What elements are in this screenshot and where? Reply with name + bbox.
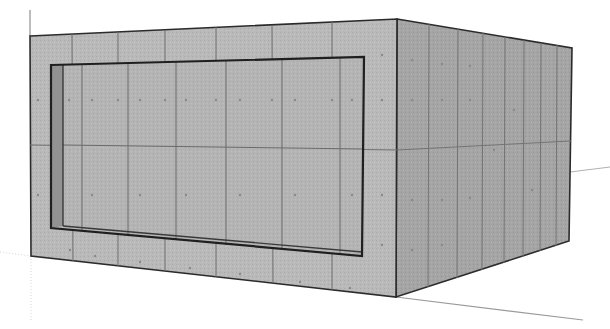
box-model-drawing	[0, 0, 610, 329]
right-face	[396, 19, 572, 297]
recessed-panel	[51, 57, 364, 256]
model-viewport[interactable]: Concrete box with recessed front panel	[0, 0, 610, 329]
